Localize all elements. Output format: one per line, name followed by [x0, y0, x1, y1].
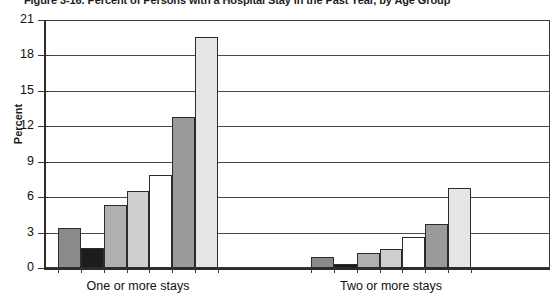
x-tick-mark [357, 268, 358, 273]
bar [357, 253, 380, 268]
x-axis-baseline [44, 268, 550, 270]
bar [172, 117, 195, 268]
x-tick-mark [81, 268, 82, 273]
bar [425, 224, 448, 268]
bar [334, 264, 357, 268]
x-tick-mark [380, 268, 381, 273]
bar [58, 228, 81, 268]
x-tick-mark [334, 268, 335, 273]
y-tick-label: 3 [4, 226, 34, 239]
bar-chart: 036912151821 Percent One or more staysTw… [0, 0, 552, 300]
x-axis-category-label: Two or more stays [311, 279, 471, 293]
bar [311, 257, 334, 268]
bar [380, 249, 403, 268]
y-tick-label: 21 [4, 13, 34, 26]
y-tick-label: 6 [4, 190, 34, 203]
bar [195, 37, 218, 268]
x-tick-mark [425, 268, 426, 273]
x-tick-mark [448, 268, 449, 273]
x-tick-mark [149, 268, 150, 273]
y-axis-title: Percent [12, 84, 24, 164]
x-tick-mark [402, 268, 403, 273]
x-tick-mark [195, 268, 196, 273]
x-tick-mark [311, 268, 312, 273]
x-axis-category-label: One or more stays [58, 279, 218, 293]
x-tick-mark [471, 268, 472, 273]
x-tick-mark [127, 268, 128, 273]
x-tick-mark [104, 268, 105, 273]
bar [127, 191, 150, 268]
x-tick-mark [218, 268, 219, 273]
bar [448, 188, 471, 268]
bar [81, 248, 104, 268]
y-tick-label: 18 [4, 48, 34, 61]
x-tick-mark [172, 268, 173, 273]
y-tick-label: 0 [4, 261, 34, 274]
x-tick-mark [58, 268, 59, 273]
bar [402, 237, 425, 268]
bar [149, 175, 172, 268]
bar [104, 205, 127, 268]
bars-group [44, 20, 550, 268]
